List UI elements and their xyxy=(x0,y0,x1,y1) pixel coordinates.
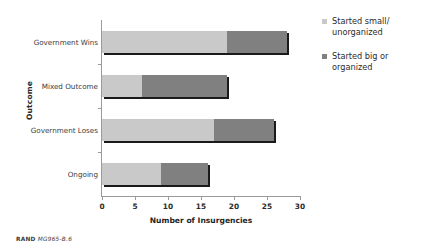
legend-swatch-icon xyxy=(322,19,327,24)
bar-segment xyxy=(161,163,207,185)
x-axis-tick-label: 30 xyxy=(295,202,305,211)
x-axis-title: Number of Insurgencies xyxy=(102,216,300,225)
y-axis-tick xyxy=(98,108,102,109)
x-axis-tick-label: 25 xyxy=(262,202,272,211)
bar-segment xyxy=(227,31,286,53)
x-axis-tick-label: 15 xyxy=(196,202,206,211)
y-axis-category-labels: Government WinsMixed OutcomeGovernment L… xyxy=(22,20,98,196)
x-axis-tick-label: 10 xyxy=(163,202,173,211)
x-axis-tick xyxy=(234,196,235,200)
y-axis-category-label: Mixed Outcome xyxy=(22,82,98,91)
figure-credit-id: MG965-B.6 xyxy=(38,236,72,242)
bar-segment xyxy=(142,75,228,97)
x-axis-tick-label: 20 xyxy=(229,202,239,211)
legend-label-continued: unorganized xyxy=(332,27,426,38)
legend-label: Started big or xyxy=(332,51,426,62)
bar-segment xyxy=(102,119,214,141)
stacked-bar-chart: Outcome Government WinsMixed OutcomeGove… xyxy=(0,0,427,250)
x-axis-tick xyxy=(300,196,301,200)
y-axis-category-label: Government Loses xyxy=(22,126,98,135)
x-axis-tick xyxy=(168,196,169,200)
y-axis-category-label: Ongoing xyxy=(22,170,98,179)
figure-credit: RAND MG965-B.6 xyxy=(16,236,72,242)
legend-item: Started big ororganized xyxy=(322,51,426,72)
bar-segment xyxy=(102,31,227,53)
chart-legend: Started small/unorganizedStarted big oro… xyxy=(322,16,426,86)
y-axis-tick xyxy=(98,64,102,65)
x-axis-tick-label: 5 xyxy=(132,202,137,211)
x-axis-tick xyxy=(267,196,268,200)
legend-label-continued: organized xyxy=(332,62,426,73)
legend-item: Started small/unorganized xyxy=(322,16,426,37)
bar-segment xyxy=(102,163,161,185)
figure-credit-source: RAND xyxy=(16,236,36,242)
x-axis-tick xyxy=(135,196,136,200)
bar-segment xyxy=(102,75,142,97)
x-axis-tick xyxy=(201,196,202,200)
legend-label: Started small/ xyxy=(332,16,426,27)
bar-segment xyxy=(214,119,273,141)
x-axis-tick xyxy=(102,196,103,200)
y-axis-tick xyxy=(98,152,102,153)
plot-area: 051015202530 Number of Insurgencies xyxy=(102,20,300,196)
y-axis-category-label: Government Wins xyxy=(22,38,98,47)
legend-swatch-icon xyxy=(322,54,327,59)
x-axis-tick-label: 0 xyxy=(99,202,104,211)
